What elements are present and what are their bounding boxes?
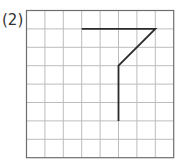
grid-diagram [0,0,181,166]
